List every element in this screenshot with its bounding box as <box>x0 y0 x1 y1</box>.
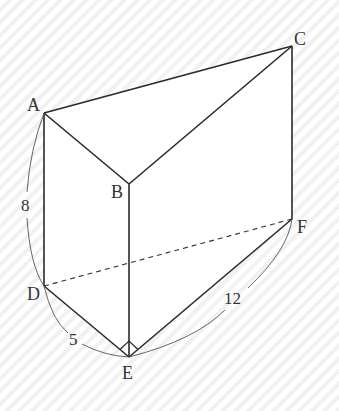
prism-body <box>44 46 292 357</box>
arc-AD-lower <box>27 218 44 286</box>
length-label-EF: 12 <box>224 289 241 308</box>
vertex-label-F: F <box>297 217 307 237</box>
arc-AD-upper <box>27 113 44 192</box>
vertex-label-E: E <box>122 363 133 383</box>
vertex-label-C: C <box>294 29 306 49</box>
vertex-label-A: A <box>27 95 40 115</box>
prism-diagram: A B C D E F 8 5 12 <box>0 0 339 411</box>
length-label-AD: 8 <box>21 196 30 215</box>
vertex-label-D: D <box>27 284 40 304</box>
vertex-label-B: B <box>111 182 123 202</box>
length-label-DE: 5 <box>69 330 78 349</box>
